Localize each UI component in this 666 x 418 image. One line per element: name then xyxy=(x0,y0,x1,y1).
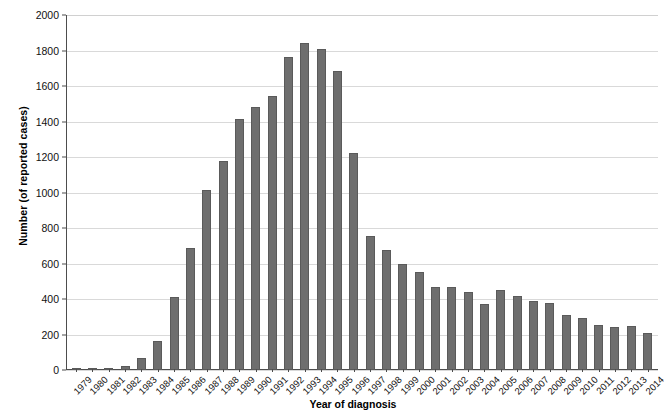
y-tick-label: 1000 xyxy=(36,187,66,199)
x-tick-mark xyxy=(582,369,583,372)
bar-series xyxy=(66,15,658,370)
x-tick-mark xyxy=(92,369,93,372)
x-tick-mark xyxy=(223,369,224,372)
bar xyxy=(268,96,277,370)
x-tick-mark xyxy=(76,369,77,372)
x-tick-mark xyxy=(288,369,289,372)
x-tick-mark xyxy=(125,369,126,372)
bar xyxy=(545,303,554,370)
bar xyxy=(235,119,244,370)
bar-slot xyxy=(150,15,166,370)
x-tick-mark xyxy=(305,369,306,372)
bar xyxy=(431,287,440,370)
bar xyxy=(594,325,603,370)
bar-slot xyxy=(427,15,443,370)
plot-area: 0200400600800100012001400160018002000 xyxy=(66,15,658,370)
bar-slot xyxy=(460,15,476,370)
y-tick-label: 1200 xyxy=(36,151,66,163)
x-tick-mark xyxy=(501,369,502,372)
x-tick-mark xyxy=(256,369,257,372)
bar-slot xyxy=(378,15,394,370)
y-tick-label: 400 xyxy=(41,293,66,305)
bar xyxy=(186,248,195,370)
bar xyxy=(300,43,309,370)
bar xyxy=(464,292,473,370)
x-tick-mark xyxy=(615,369,616,372)
bar-slot xyxy=(297,15,313,370)
y-tick-label: 200 xyxy=(41,329,66,341)
bar-slot xyxy=(133,15,149,370)
bar xyxy=(578,318,587,370)
bar-slot xyxy=(248,15,264,370)
x-tick-mark xyxy=(141,369,142,372)
bar xyxy=(513,296,522,370)
x-tick-mark xyxy=(370,369,371,372)
bar xyxy=(153,341,162,370)
y-tick-label: 0 xyxy=(53,364,66,376)
x-tick-mark xyxy=(158,369,159,372)
x-tick-mark xyxy=(337,369,338,372)
bar xyxy=(610,327,619,370)
bar xyxy=(251,107,260,370)
x-tick-mark xyxy=(484,369,485,372)
x-tick-mark xyxy=(272,369,273,372)
bar xyxy=(415,272,424,371)
bar-slot xyxy=(84,15,100,370)
x-tick-mark xyxy=(207,369,208,372)
bar-slot xyxy=(444,15,460,370)
bar-slot xyxy=(623,15,639,370)
x-tick-mark xyxy=(190,369,191,372)
x-tick-mark xyxy=(386,369,387,372)
bar-slot xyxy=(639,15,655,370)
bar-slot xyxy=(574,15,590,370)
gridline xyxy=(66,370,658,371)
bar-slot xyxy=(264,15,280,370)
bar-slot xyxy=(395,15,411,370)
bar-slot xyxy=(525,15,541,370)
y-tick-label: 600 xyxy=(41,258,66,270)
x-tick-mark xyxy=(599,369,600,372)
x-tick-mark xyxy=(435,369,436,372)
bar-slot xyxy=(591,15,607,370)
bar xyxy=(529,301,538,370)
x-tick-mark xyxy=(517,369,518,372)
bar-slot xyxy=(215,15,231,370)
bar-slot xyxy=(182,15,198,370)
bar xyxy=(398,264,407,370)
bar xyxy=(447,287,456,370)
x-tick-mark xyxy=(648,369,649,372)
bar xyxy=(317,49,326,370)
bar-slot xyxy=(199,15,215,370)
bar-slot xyxy=(329,15,345,370)
bar xyxy=(366,236,375,370)
y-tick-label: 800 xyxy=(41,222,66,234)
x-tick-mark xyxy=(533,369,534,372)
x-tick-mark xyxy=(109,369,110,372)
y-tick-label: 1400 xyxy=(36,116,66,128)
bar xyxy=(333,71,342,370)
x-tick-mark xyxy=(452,369,453,372)
bar-slot xyxy=(68,15,84,370)
x-tick-mark xyxy=(550,369,551,372)
bar-slot xyxy=(509,15,525,370)
bar-slot xyxy=(607,15,623,370)
bar-slot xyxy=(166,15,182,370)
bar-chart: Number (of reported cases) 0200400600800… xyxy=(0,0,666,418)
y-tick-label: 2000 xyxy=(36,9,66,21)
bar-slot xyxy=(542,15,558,370)
x-tick-mark xyxy=(174,369,175,372)
bar xyxy=(202,190,211,370)
bar xyxy=(562,315,571,370)
y-axis-title: Number (of reported cases) xyxy=(17,71,29,281)
bar-slot xyxy=(362,15,378,370)
x-tick-mark xyxy=(468,369,469,372)
bar xyxy=(219,161,228,370)
bar-slot xyxy=(231,15,247,370)
x-tick-label: 2014 xyxy=(643,374,666,397)
bar xyxy=(284,57,293,370)
bar-slot xyxy=(493,15,509,370)
bar xyxy=(382,250,391,370)
bar-slot xyxy=(346,15,362,370)
bar-slot xyxy=(280,15,296,370)
bar-slot xyxy=(117,15,133,370)
